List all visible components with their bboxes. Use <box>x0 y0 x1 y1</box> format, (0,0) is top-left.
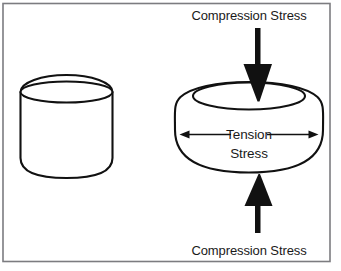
bottom-compression-arrow <box>245 174 273 233</box>
tension-label-line2: Stress <box>230 146 268 161</box>
top-arrow-shaft <box>255 28 261 66</box>
top-compression-label: Compression Stress <box>191 8 307 23</box>
diagram-canvas: Compression Stress Compression Stress Te… <box>0 0 341 271</box>
stress-diagram-figure: Compression Stress Compression Stress Te… <box>0 0 341 271</box>
barrel-top-rim <box>193 83 305 110</box>
bottom-arrow-head <box>245 174 273 206</box>
cylinder-top-rim <box>21 82 113 103</box>
tension-label-line1: Tension <box>226 127 272 142</box>
undeformed-cylinder <box>21 75 113 178</box>
bottom-compression-label: Compression Stress <box>191 243 307 258</box>
